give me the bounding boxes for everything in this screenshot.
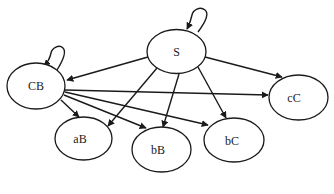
node-S-label: S (173, 45, 180, 59)
graph-svg: S CB aB bB bC cC (0, 0, 334, 194)
edge-S-S (187, 8, 207, 32)
edge-S-cC (205, 57, 282, 77)
edge-S-bC (198, 67, 226, 118)
node-bC: bC (204, 118, 264, 162)
node-CB-label: CB (28, 79, 44, 93)
edge-S-aB (108, 68, 157, 126)
node-bC-label: bC (225, 134, 239, 148)
node-cC: cC (269, 75, 328, 120)
node-S: S (147, 30, 206, 74)
edge-S-bB (163, 74, 179, 127)
node-aB-label: aB (73, 132, 86, 146)
node-bB-label: bB (151, 143, 165, 157)
edge-S-CB (67, 57, 148, 80)
graph-canvas: S CB aB bB bC cC (0, 0, 334, 194)
node-CB: CB (7, 63, 65, 109)
node-cC-label: cC (287, 91, 300, 105)
node-aB: aB (55, 117, 112, 160)
edge-CB-cC (65, 90, 268, 95)
edge-CB-aB (61, 100, 79, 117)
node-bB: bB (132, 127, 191, 172)
